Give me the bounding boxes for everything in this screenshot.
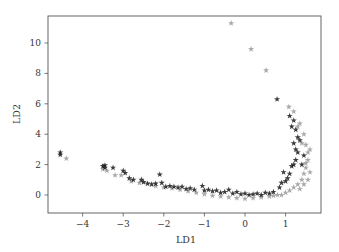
scatter-chart: −4−3−2−101 0246810 LD1 LD2 xyxy=(0,0,339,252)
star-marker-icon xyxy=(291,184,297,190)
star-marker-icon xyxy=(112,172,118,178)
y-tick-label: 8 xyxy=(35,68,41,78)
series-dark-points xyxy=(57,96,307,198)
star-marker-icon xyxy=(307,169,313,175)
star-marker-icon xyxy=(286,104,292,110)
star-marker-icon xyxy=(281,169,287,175)
x-tick-label: −2 xyxy=(157,219,170,229)
x-tick-label: −1 xyxy=(198,219,211,229)
x-axis-label: LD1 xyxy=(176,234,196,245)
star-marker-icon xyxy=(238,191,244,197)
x-tick-label: 0 xyxy=(242,219,248,229)
star-marker-icon xyxy=(301,152,307,158)
star-marker-icon xyxy=(248,46,254,52)
star-marker-icon xyxy=(218,193,224,199)
star-marker-icon xyxy=(234,195,240,201)
y-tick-label: 2 xyxy=(35,160,41,170)
star-marker-icon xyxy=(301,131,307,137)
star-marker-icon xyxy=(242,190,248,196)
star-marker-icon xyxy=(301,171,307,177)
star-marker-icon xyxy=(63,155,69,161)
star-marker-icon xyxy=(291,140,297,146)
series-light-points xyxy=(63,20,313,201)
y-tick-label: 0 xyxy=(35,190,41,200)
star-marker-icon xyxy=(289,123,295,129)
star-marker-icon xyxy=(228,20,234,26)
star-marker-icon xyxy=(287,113,293,119)
star-marker-icon xyxy=(305,177,311,183)
star-marker-icon xyxy=(301,181,307,187)
star-marker-icon xyxy=(270,193,276,199)
star-marker-icon xyxy=(274,96,280,102)
star-marker-icon xyxy=(242,196,248,202)
star-marker-icon xyxy=(57,152,63,158)
star-marker-icon xyxy=(276,184,282,190)
star-marker-icon xyxy=(226,194,232,200)
star-marker-icon xyxy=(205,186,211,192)
star-marker-icon xyxy=(209,193,215,199)
star-marker-icon xyxy=(110,164,116,170)
star-marker-icon xyxy=(201,191,207,197)
star-marker-icon xyxy=(118,172,124,178)
star-marker-icon xyxy=(291,117,297,123)
x-tick-label: −3 xyxy=(117,219,131,229)
x-tick-label: 1 xyxy=(283,219,289,229)
star-marker-icon xyxy=(250,195,256,201)
star-marker-icon xyxy=(157,171,163,177)
star-marker-icon xyxy=(149,181,155,187)
y-axis-label: LD2 xyxy=(11,104,22,124)
star-marker-icon xyxy=(263,67,269,73)
y-tick-label: 6 xyxy=(35,99,41,109)
star-marker-icon xyxy=(297,186,303,192)
y-tick-label: 4 xyxy=(35,129,41,139)
y-axis-ticks: 0246810 xyxy=(30,38,48,200)
star-marker-icon xyxy=(222,189,228,195)
x-tick-label: −4 xyxy=(76,219,90,229)
y-tick-label: 10 xyxy=(30,38,42,48)
star-marker-icon xyxy=(254,190,260,196)
x-axis-ticks: −4−3−2−101 xyxy=(76,213,289,229)
plot-frame xyxy=(48,16,321,213)
star-marker-icon xyxy=(303,164,309,170)
star-marker-icon xyxy=(291,108,297,114)
